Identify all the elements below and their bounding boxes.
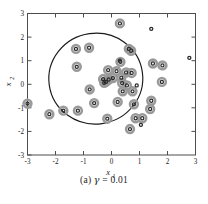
y-tick-label: -3 — [18, 152, 24, 160]
y-tick-labels: 3 2 1 0 -1 -2 -3 — [18, 10, 24, 160]
figure-caption: (a) γ = 0.01 — [0, 174, 208, 185]
y-axis-title-sub: 2 — [9, 77, 15, 80]
x-tick-label: -3 — [25, 158, 31, 166]
caption-value: 0.01 — [110, 175, 127, 185]
caption-prefix: (a) — [80, 175, 91, 185]
y-axis-title: x 2 — [4, 77, 15, 87]
figure-panel: -3 -2 -1 0 1 2 3 3 2 1 0 -1 -2 -3 x 1 x … — [0, 0, 208, 204]
y-tick-label: 2 — [20, 34, 24, 42]
y-tick-label: 3 — [20, 10, 24, 18]
x-tick-label: 0 — [110, 158, 114, 166]
caption-equals: = — [102, 175, 108, 185]
y-axis-title-base: x — [4, 82, 13, 87]
x-tick-label: 1 — [138, 158, 142, 166]
x-tick-labels: -3 -2 -1 0 1 2 3 — [25, 158, 198, 166]
y-tick-label: 0 — [20, 81, 24, 89]
plot-frame — [28, 14, 196, 156]
caption-gamma-symbol: γ — [94, 174, 100, 185]
x-tick-label: -1 — [81, 158, 87, 166]
x-tick-label: -2 — [53, 158, 59, 166]
x-tick-label: 3 — [194, 158, 198, 166]
y-tick-label: 1 — [20, 57, 24, 65]
x-tick-label: 2 — [166, 158, 170, 166]
y-tick-label: -2 — [18, 128, 24, 136]
